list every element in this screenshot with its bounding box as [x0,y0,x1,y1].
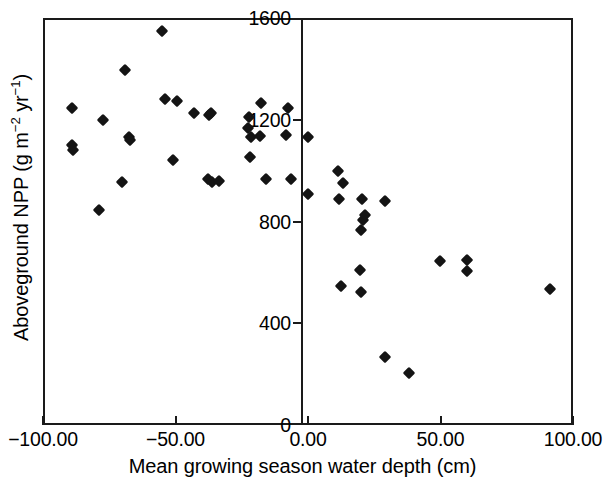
y-axis-title-exponent-2: −1 [8,81,23,96]
y-tick-mark [293,221,302,223]
x-tick-label: 50.00 [417,428,465,451]
plot-frame [43,18,573,425]
y-axis-title-mid: yr [10,95,32,117]
scatter-plot-figure: −100.00−50.000.0050.00100.00 04008001200… [0,0,605,500]
y-tick-mark [293,119,302,121]
y-axis-title-prefix: Aboveground NPP (g m [10,132,32,341]
y-tick-label: 800 [259,210,291,233]
x-tick-label: −50.00 [146,428,205,451]
y-axis-title: Aboveground NPP (g m−2 yr−1) [10,0,33,418]
y-tick-label: 0 [280,414,291,437]
x-tick-mark [42,416,44,425]
y-tick-label: 400 [259,312,291,335]
y-axis-title-exponent-1: −2 [8,117,23,132]
y-tick-label: 1600 [248,7,291,30]
x-tick-mark [572,416,574,425]
x-tick-label: 0.00 [289,428,326,451]
y-tick-mark [293,322,302,324]
x-tick-label: 100.00 [544,428,602,451]
x-axis-title: Mean growing season water depth (cm) [0,455,605,478]
x-tick-label: −100.00 [8,428,78,451]
y-axis-title-suffix: ) [10,74,32,81]
x-tick-mark [175,416,177,425]
x-tick-mark [307,416,309,425]
x-tick-mark [440,416,442,425]
